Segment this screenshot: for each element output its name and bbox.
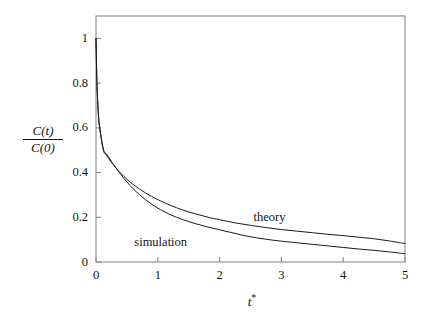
x-axis-label-superscript: * <box>251 292 256 303</box>
y-tick-label: 0.6 <box>40 121 88 134</box>
y-tick-label: 1 <box>40 32 88 45</box>
y-axis-label-denominator: C(0) <box>17 140 69 155</box>
y-tick-label: 0 <box>40 256 88 269</box>
y-tick-label: 0.2 <box>40 211 88 224</box>
x-tick-label: 0 <box>81 269 111 282</box>
y-tick-label: 0.8 <box>40 77 88 90</box>
chart-figure: C(t) C(0) t* 00.20.40.60.81012345 theory… <box>0 0 428 321</box>
y-tick-label: 0.4 <box>40 166 88 179</box>
x-axis-label: t* <box>222 292 282 310</box>
annotation-theory: theory <box>254 211 286 224</box>
x-tick-label: 4 <box>328 269 358 282</box>
x-tick-label: 1 <box>143 269 173 282</box>
x-tick-label: 2 <box>205 269 235 282</box>
x-tick-label: 3 <box>266 269 296 282</box>
annotation-simulation: simulation <box>134 236 187 249</box>
x-tick-label: 5 <box>390 269 420 282</box>
